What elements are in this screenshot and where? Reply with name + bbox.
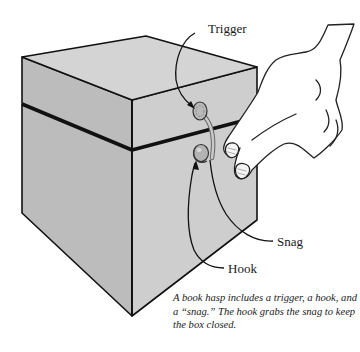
- snag-label: Snag: [277, 235, 303, 248]
- trigger-label: Trigger: [208, 22, 247, 35]
- box: [22, 36, 257, 316]
- figure-caption: A book hasp includes a trigger, a hook, …: [173, 291, 359, 332]
- trigger-disc: [193, 102, 207, 120]
- hook-label: Hook: [228, 262, 257, 275]
- index-fingernail: [225, 143, 238, 158]
- box-left-face: [22, 57, 132, 316]
- box-right-face: [132, 67, 257, 316]
- diagram-canvas: Trigger Snag Hook A book hasp includes a…: [0, 0, 360, 352]
